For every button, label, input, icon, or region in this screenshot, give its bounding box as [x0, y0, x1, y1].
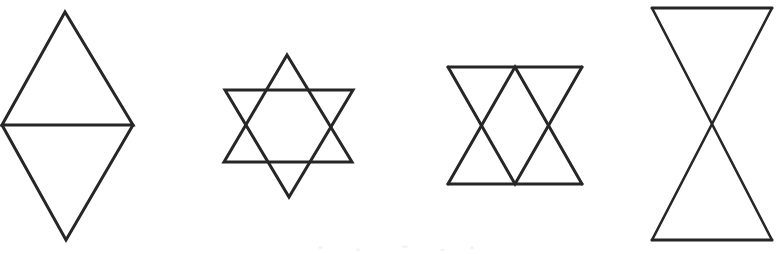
figure-1-rhombus [2, 12, 133, 240]
figure-2-downward-triangle [225, 90, 353, 197]
figure-sheet [0, 0, 778, 254]
figure-1-lower-triangle [2, 125, 133, 240]
figure-1-upper-triangle [2, 12, 133, 125]
figure-3-zigzag-band [448, 67, 582, 184]
figure-3-upward-zigzag [448, 67, 582, 184]
figures-canvas [0, 0, 778, 254]
figure-3-downward-zigzag [448, 67, 582, 184]
figure-2-upward-triangle [224, 55, 352, 162]
figure-4-bowtie [652, 8, 772, 240]
figure-2-hexagram [224, 55, 353, 197]
